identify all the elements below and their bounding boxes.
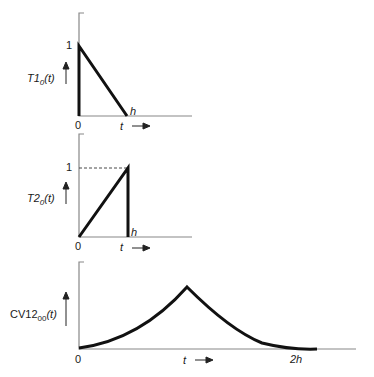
panel1-curve [79, 46, 127, 116]
panel3-curve [79, 287, 317, 349]
panel3-y-label: CV1200(t) [10, 309, 57, 324]
curves [79, 46, 317, 349]
panel2-y-tick: 1 [66, 162, 72, 173]
panel2-y-label: T20(t) [27, 193, 55, 208]
panel1-y-label: T10(t) [27, 73, 55, 88]
panel2-x-end: h [131, 227, 137, 238]
x-arrows [132, 123, 213, 363]
panel2-x-label: t [120, 242, 123, 253]
panel2-axes [79, 134, 192, 237]
panel1-y-tick: 1 [66, 40, 72, 51]
panel2-x-origin: 0 [75, 241, 81, 252]
panel1-x-end: h [130, 106, 136, 117]
panel3-x-origin: 0 [75, 354, 81, 365]
panel2-curve [79, 168, 128, 237]
panel1-axes [79, 13, 192, 116]
y-arrows [63, 62, 69, 326]
panel3-x-label: t [183, 355, 186, 366]
panel3-x-end: 2h [290, 354, 302, 365]
panel1-x-label: t [120, 121, 123, 132]
panel1-x-origin: 0 [75, 120, 81, 131]
